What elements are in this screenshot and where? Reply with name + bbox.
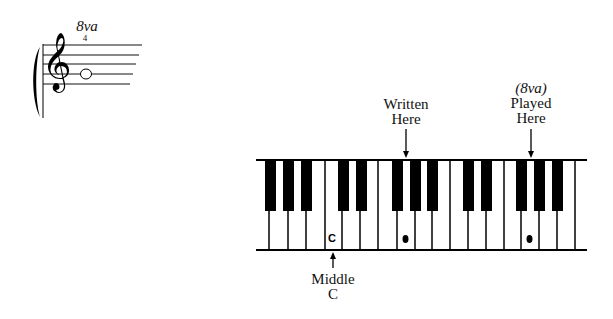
black-key xyxy=(463,160,474,211)
black-key xyxy=(338,160,349,211)
black-key xyxy=(265,160,276,211)
black-key xyxy=(516,160,527,211)
middle-c-label: Middle C xyxy=(303,272,363,302)
black-key xyxy=(534,160,545,211)
middle-c-arrow-icon xyxy=(330,252,336,268)
black-key xyxy=(410,160,421,211)
black-key xyxy=(481,160,492,211)
black-key xyxy=(427,160,438,211)
played-note-dot-icon xyxy=(527,235,533,243)
middle-c-key-label: C xyxy=(328,232,336,244)
black-key xyxy=(392,160,403,211)
written-note-dot-icon xyxy=(403,235,409,243)
black-key xyxy=(283,160,294,211)
black-key xyxy=(552,160,563,211)
black-key xyxy=(301,160,312,211)
black-key xyxy=(356,160,367,211)
black-keys xyxy=(265,160,563,211)
middle-c-line2: C xyxy=(303,287,363,302)
middle-c-line1: Middle xyxy=(303,272,363,287)
written-arrow-icon xyxy=(403,129,409,158)
played-arrow-icon xyxy=(528,129,534,158)
